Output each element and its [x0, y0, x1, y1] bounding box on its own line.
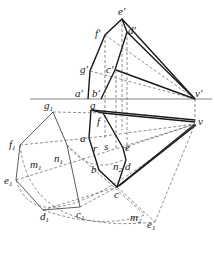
projection-diagram: e′ f′ d′ g′ c′ a′ b′ v′ g f a r s e b n2… — [0, 0, 215, 255]
front-edge-f-v — [105, 35, 195, 99]
label-v-prime: v′ — [195, 87, 203, 99]
construction — [16, 124, 195, 180]
label-c1: c1 — [76, 208, 84, 222]
top-edge-c-v-2 — [119, 125, 196, 186]
label-d-prime: d′ — [128, 24, 137, 36]
label-e1-left: e1 — [4, 174, 12, 188]
label-f-prime: f′ — [95, 27, 101, 39]
label-b-prime: b′ — [92, 87, 101, 99]
label-b: b — [91, 163, 97, 175]
rotation-arc — [16, 124, 195, 207]
label-g1: g1 — [44, 99, 53, 113]
label-v: v — [198, 115, 203, 127]
construction — [155, 124, 195, 222]
label-c: c — [114, 188, 119, 200]
label-s: s — [104, 140, 108, 152]
top-edge-f-v — [103, 113, 195, 122]
construction — [53, 112, 103, 113]
label-m2: m2 — [130, 211, 142, 225]
label-n1: n1 — [54, 152, 63, 166]
label-a-prime: a′ — [75, 87, 84, 99]
true-shape-outline — [16, 112, 80, 210]
label-a: a — [80, 132, 86, 144]
label-m1: m1 — [30, 158, 41, 172]
construction — [20, 138, 89, 145]
label-d1: d1 — [40, 210, 49, 224]
label-r: r — [93, 142, 98, 154]
label-e1-right: e1 — [147, 218, 155, 232]
label-e: e — [125, 141, 130, 153]
label-c-prime: c′ — [106, 63, 114, 75]
label-f: f — [97, 115, 102, 127]
label-e-prime: e′ — [118, 5, 126, 17]
construction — [80, 187, 117, 207]
front-edge-d-v — [127, 32, 195, 99]
label-n2: n2 — [113, 160, 123, 174]
label-d: d — [125, 160, 131, 172]
label-g: g — [90, 99, 96, 111]
construction — [67, 145, 145, 215]
front-edge-g-v — [90, 71, 195, 99]
label-f1: f1 — [9, 138, 16, 152]
front-edge-c-v — [116, 70, 195, 99]
label-g-prime: g′ — [80, 63, 89, 75]
